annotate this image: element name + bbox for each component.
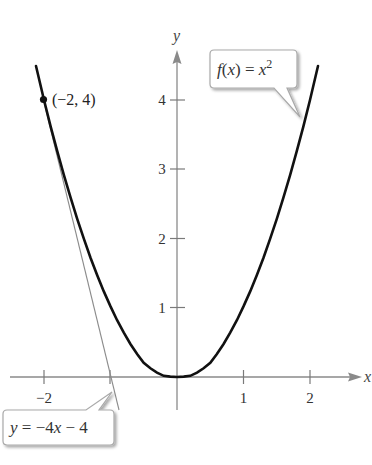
parabola-tangent-chart: x y −2 1 2 4 3 2 1 (−2, 4) f(x) = x2 xyxy=(0,0,372,465)
point-marker xyxy=(40,96,47,103)
y-axis-label: y xyxy=(171,27,181,45)
y-tick-label-3: 3 xyxy=(158,161,166,177)
y-tick-label-2: 2 xyxy=(158,231,166,247)
y-axis-arrow-icon xyxy=(173,50,182,64)
callout-tangent-text: y = −4x − 4 xyxy=(8,418,88,437)
x-tick-label-2: 2 xyxy=(306,390,314,406)
y-ticks: 4 3 2 1 xyxy=(158,92,185,316)
x-axis-label: x xyxy=(363,368,371,385)
x-tick-label-1: 1 xyxy=(240,390,248,406)
x-axis-arrow-icon xyxy=(348,373,362,382)
y-tick-label-1: 1 xyxy=(158,300,166,316)
x-ticks: −2 1 2 xyxy=(36,370,314,406)
y-tick-label-4: 4 xyxy=(158,92,166,108)
point-label: (−2, 4) xyxy=(52,91,96,109)
callout-function-text: f(x) = x2 xyxy=(217,57,272,79)
x-tick-label-neg2: −2 xyxy=(36,390,52,406)
y-axis: y xyxy=(171,27,182,410)
